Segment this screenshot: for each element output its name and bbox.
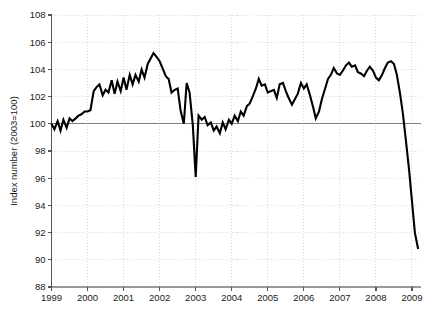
- y-tick-label: 98: [35, 145, 46, 156]
- x-tick-label: 2002: [149, 292, 170, 303]
- x-tick-label: 2009: [401, 292, 422, 303]
- y-tick-label: 92: [35, 227, 46, 238]
- x-tick-label: 1999: [41, 292, 62, 303]
- y-axis-tick-labels: 889092949698100102104106108: [30, 9, 46, 292]
- x-axis-tick-labels: 1999200020012002200320042005200620072008…: [41, 292, 423, 303]
- x-tick-label: 2005: [257, 292, 278, 303]
- y-tick-label: 90: [35, 254, 46, 265]
- x-tick-label: 2001: [113, 292, 134, 303]
- y-tick-label: 94: [35, 200, 46, 211]
- x-tick-label: 2007: [329, 292, 350, 303]
- x-tick-label: 2004: [221, 292, 242, 303]
- y-tick-label: 102: [30, 91, 46, 102]
- axis-lines: [52, 15, 422, 287]
- y-axis-title-text: Index number (2003=100): [8, 96, 19, 206]
- x-tick-label: 2008: [365, 292, 386, 303]
- chart-container: 889092949698100102104106108 199920002001…: [0, 0, 429, 315]
- y-tick-label: 108: [30, 9, 46, 20]
- y-axis-title: Index number (2003=100): [8, 96, 19, 206]
- y-tick-label: 100: [30, 118, 46, 129]
- line-chart: 889092949698100102104106108 199920002001…: [0, 0, 429, 315]
- x-tick-label: 2000: [77, 292, 98, 303]
- horizontal-gridlines: [52, 15, 422, 287]
- x-tick-label: 2003: [185, 292, 206, 303]
- y-tick-label: 88: [35, 281, 46, 292]
- y-tick-label: 104: [30, 64, 46, 75]
- x-tick-label: 2006: [293, 292, 314, 303]
- y-tick-label: 106: [30, 37, 46, 48]
- y-tick-label: 96: [35, 173, 46, 184]
